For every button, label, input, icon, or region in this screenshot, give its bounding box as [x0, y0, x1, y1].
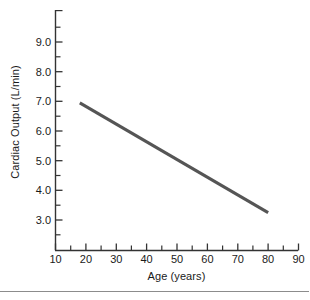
xtick-label-10: 10 [44, 254, 68, 265]
xtick-label-80: 80 [256, 254, 280, 265]
x-axis-title: Age (years) [55, 270, 298, 282]
ytick-label-3: 3.0 [25, 215, 51, 226]
ytick-label-4: 4.0 [25, 185, 51, 196]
ytick-label-5: 5.0 [25, 156, 51, 167]
ytick-label-7: 7.0 [25, 96, 51, 107]
chart-figure: 9.0 8.0 7.0 6.0 5.0 4.0 3.0 10 20 30 40 … [0, 0, 309, 300]
ytick-label-9: 9.0 [25, 37, 51, 48]
y-axis-title: Cardiac Output (L/min) [6, 0, 24, 252]
xtick-label-70: 70 [226, 254, 250, 265]
xtick-label-20: 20 [74, 254, 98, 265]
y-minor-ticks [56, 11, 63, 235]
xtick-label-90: 90 [287, 254, 310, 265]
data-series-line [80, 103, 268, 213]
xtick-label-30: 30 [104, 254, 128, 265]
x-major-ticks [56, 244, 299, 251]
ytick-label-8: 8.0 [25, 67, 51, 78]
y-major-ticks [56, 42, 63, 220]
xtick-label-60: 60 [195, 254, 219, 265]
xtick-label-50: 50 [165, 254, 189, 265]
ytick-label-6: 6.0 [25, 126, 51, 137]
xtick-label-40: 40 [135, 254, 159, 265]
footer-divider [0, 291, 309, 292]
